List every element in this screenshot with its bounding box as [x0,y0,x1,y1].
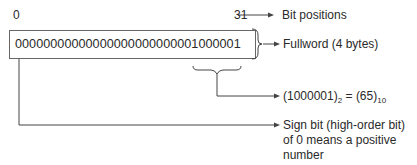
fullword-label: Fullword (4 bytes) [283,37,378,51]
sign-bit-connector [19,59,276,125]
decimal-value: (65) [356,89,377,103]
sign-bit-label-line1: Sign bit (high-order bit) [283,118,405,132]
binary-base: 2 [338,96,342,105]
value-connector [217,74,276,96]
value-equation: (1000001)2 = (65)10 [283,89,386,108]
bit-positions-label: Bit positions [282,8,347,22]
bit-start-label: 0 [13,8,20,22]
sign-bit-label-line2: of 0 means a positive [283,133,396,147]
fullword-brace [252,29,262,59]
binary-value: (1000001) [283,89,338,103]
value-brace [193,66,241,74]
equals-sign: = [346,89,353,103]
decimal-base: 10 [377,96,386,105]
word-bits: 00000000000000000000000001000001 [15,37,241,51]
sign-bit-label-line3: number [283,148,324,162]
bit-end-label: 31 [234,8,247,22]
